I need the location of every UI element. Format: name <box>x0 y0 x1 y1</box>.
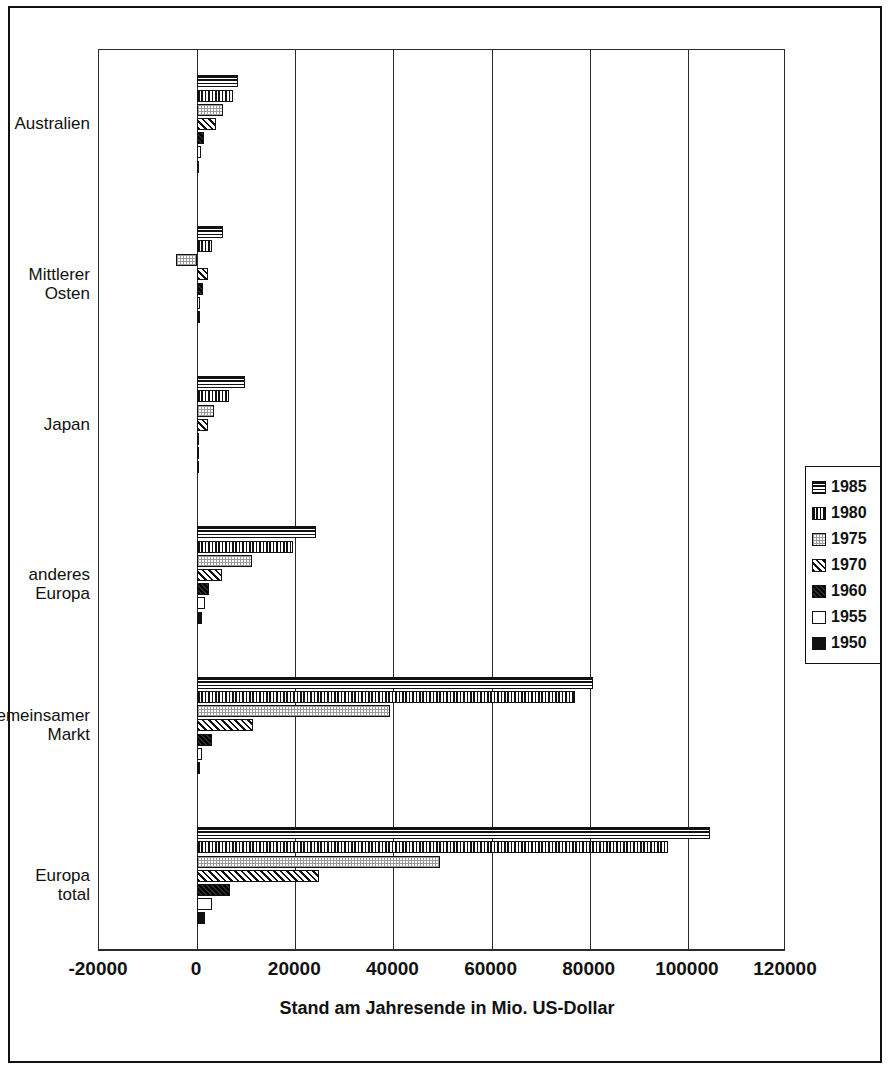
legend-swatch-1985 <box>812 481 826 494</box>
bar-1955-0 <box>197 146 200 158</box>
legend-item-1975[interactable]: 1975 <box>812 526 875 552</box>
legend-item-1980[interactable]: 1980 <box>812 500 875 526</box>
bar-1950-2 <box>197 461 199 473</box>
bar-1950-3 <box>197 612 202 624</box>
x-tick-label-6: 100000 <box>655 958 718 980</box>
x-tick-label-1: 0 <box>191 958 202 980</box>
x-tick-label-4: 60000 <box>464 958 517 980</box>
legend-label-1980: 1980 <box>831 504 867 522</box>
bar-1975-1 <box>176 254 197 266</box>
bar-1960-0 <box>197 132 203 144</box>
x-tick-label-0: -20000 <box>68 958 127 980</box>
legend-swatch-1955 <box>812 611 826 624</box>
bar-1970-1 <box>197 268 208 280</box>
bar-1950-1 <box>197 311 199 323</box>
bar-1950-4 <box>197 762 199 774</box>
bar-1970-2 <box>197 419 208 431</box>
category-label-5: Europa total <box>10 866 90 904</box>
legend-label-1960: 1960 <box>831 582 867 600</box>
bar-1970-3 <box>197 569 222 581</box>
bar-1975-4 <box>197 705 390 717</box>
bar-1955-4 <box>197 748 202 760</box>
bar-1985-2 <box>197 376 245 388</box>
category-axis-labels: AustralienMittlerer OstenJapananderes Eu… <box>10 49 90 951</box>
legend-item-1955[interactable]: 1955 <box>812 604 875 630</box>
x-tick-label-2: 20000 <box>268 958 321 980</box>
legend-swatch-1950 <box>812 637 826 650</box>
bar-1955-5 <box>197 898 212 910</box>
legend-item-1970[interactable]: 1970 <box>812 552 875 578</box>
bar-1970-5 <box>197 870 319 882</box>
legend-label-1950: 1950 <box>831 634 867 652</box>
bar-1985-0 <box>197 75 238 87</box>
legend-item-1950[interactable]: 1950 <box>812 630 875 656</box>
category-label-1: Mittlerer Osten <box>10 265 90 303</box>
legend-item-1960[interactable]: 1960 <box>812 578 875 604</box>
bar-1960-3 <box>197 583 209 595</box>
bar-1985-5 <box>197 827 710 839</box>
legend-label-1985: 1985 <box>831 478 867 496</box>
category-label-4: Gemeinsamer Markt <box>0 706 90 744</box>
bar-1950-0 <box>197 161 199 173</box>
x-tick-label-7: 120000 <box>753 958 816 980</box>
bar-1970-4 <box>197 719 253 731</box>
plot-area <box>98 49 785 951</box>
bar-1960-4 <box>197 734 212 746</box>
bar-1980-4 <box>197 691 575 703</box>
bar-1970-0 <box>197 118 216 130</box>
legend-label-1970: 1970 <box>831 556 867 574</box>
bar-1955-2 <box>197 447 199 459</box>
chart-figure-frame: AustralienMittlerer OstenJapananderes Eu… <box>8 6 882 1063</box>
bar-1980-2 <box>197 390 229 402</box>
legend-item-1985[interactable]: 1985 <box>812 474 875 500</box>
category-label-2: Japan <box>44 415 90 434</box>
legend-swatch-1970 <box>812 559 826 572</box>
legend-swatch-1960 <box>812 585 826 598</box>
bar-1985-1 <box>197 226 223 238</box>
x-axis-title: Stand am Jahresende in Mio. US-Dollar <box>10 998 884 1019</box>
legend-swatch-1980 <box>812 507 826 520</box>
bars-layer <box>99 50 784 949</box>
category-label-0: Australien <box>14 114 90 133</box>
bar-1975-3 <box>197 555 252 567</box>
bar-1975-0 <box>197 104 223 116</box>
bar-1950-5 <box>197 912 205 924</box>
x-tick-label-3: 40000 <box>366 958 419 980</box>
category-label-3: anderes Europa <box>10 565 90 603</box>
chart-legend: 1985198019751970196019551950 <box>805 466 881 664</box>
bar-1975-5 <box>197 856 440 868</box>
bar-1960-2 <box>197 433 199 445</box>
bar-1980-1 <box>197 240 212 252</box>
bar-1985-4 <box>197 677 593 689</box>
legend-label-1975: 1975 <box>831 530 867 548</box>
bar-1955-3 <box>197 597 205 609</box>
bar-1960-5 <box>197 884 230 896</box>
bar-1980-3 <box>197 541 293 553</box>
bar-1955-1 <box>197 297 200 309</box>
x-tick-label-5: 80000 <box>562 958 615 980</box>
x-axis-tick-labels: -20000020000400006000080000100000120000 <box>10 958 884 988</box>
bar-1980-5 <box>197 841 668 853</box>
bar-1980-0 <box>197 90 233 102</box>
bar-1975-2 <box>197 405 214 417</box>
bar-1960-1 <box>197 283 203 295</box>
bar-1985-3 <box>197 526 316 538</box>
legend-swatch-1975 <box>812 533 826 546</box>
legend-label-1955: 1955 <box>831 608 867 626</box>
source-caption <box>10 1072 880 1087</box>
